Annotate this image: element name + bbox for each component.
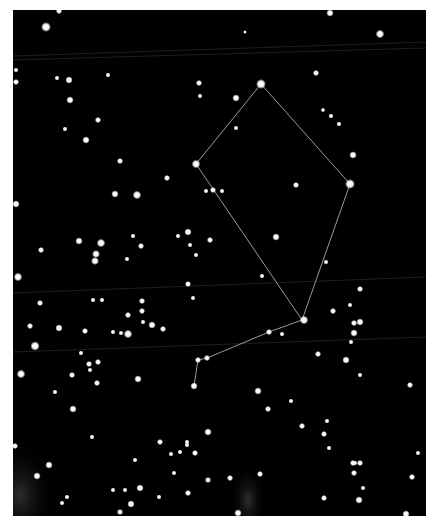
star[interactable] (65, 76, 73, 84)
star[interactable] (272, 233, 280, 241)
star[interactable] (195, 357, 201, 363)
star[interactable] (356, 318, 364, 326)
star[interactable] (265, 406, 271, 412)
star[interactable] (86, 361, 92, 367)
star[interactable] (134, 375, 142, 383)
star[interactable] (75, 237, 83, 245)
star[interactable] (45, 461, 53, 469)
star[interactable] (95, 359, 101, 365)
star[interactable] (402, 510, 410, 516)
star[interactable] (357, 286, 363, 292)
star[interactable] (97, 239, 106, 248)
star[interactable] (125, 257, 130, 262)
star[interactable] (185, 490, 191, 496)
star[interactable] (254, 387, 262, 395)
star[interactable] (33, 472, 41, 480)
star[interactable] (257, 471, 263, 477)
star[interactable] (190, 382, 198, 390)
star[interactable] (315, 351, 321, 357)
star[interactable] (350, 460, 356, 466)
star[interactable] (192, 450, 198, 456)
star[interactable] (321, 108, 326, 113)
star[interactable] (185, 281, 191, 287)
star[interactable] (361, 486, 366, 491)
star[interactable] (138, 243, 144, 249)
star[interactable] (176, 234, 181, 239)
star[interactable] (17, 370, 26, 379)
star[interactable] (13, 79, 19, 85)
star[interactable] (41, 22, 51, 32)
star[interactable] (220, 189, 225, 194)
star[interactable] (185, 443, 190, 448)
star[interactable] (157, 495, 162, 500)
star[interactable] (243, 30, 247, 34)
star[interactable] (188, 243, 193, 248)
star[interactable] (357, 460, 363, 466)
star[interactable] (148, 321, 156, 329)
star[interactable] (82, 136, 90, 144)
star[interactable] (198, 94, 203, 99)
star[interactable] (351, 320, 357, 326)
star[interactable] (136, 484, 144, 492)
star[interactable] (133, 458, 138, 463)
star[interactable] (204, 355, 210, 361)
star[interactable] (349, 151, 357, 159)
star[interactable] (157, 439, 163, 445)
star[interactable] (325, 419, 330, 424)
star[interactable] (111, 330, 116, 335)
star[interactable] (139, 298, 145, 304)
star[interactable] (313, 70, 319, 76)
star[interactable] (234, 126, 239, 131)
star[interactable] (164, 175, 170, 181)
star[interactable] (66, 96, 74, 104)
star[interactable] (345, 179, 355, 189)
star[interactable] (139, 308, 145, 314)
star[interactable] (27, 323, 33, 329)
star[interactable] (329, 114, 334, 119)
star[interactable] (293, 182, 299, 188)
star[interactable] (88, 368, 93, 373)
star[interactable] (289, 399, 294, 404)
star[interactable] (133, 191, 142, 200)
star[interactable] (169, 452, 174, 457)
star[interactable] (127, 500, 135, 508)
star[interactable] (299, 423, 305, 429)
star[interactable] (160, 326, 166, 332)
star[interactable] (326, 10, 334, 17)
star[interactable] (13, 200, 20, 208)
star[interactable] (69, 405, 77, 413)
star[interactable] (60, 501, 65, 506)
star[interactable] (351, 470, 357, 476)
star[interactable] (92, 250, 100, 258)
star[interactable] (131, 234, 136, 239)
star[interactable] (55, 324, 63, 332)
star[interactable] (376, 30, 385, 39)
star[interactable] (194, 253, 199, 258)
star[interactable] (69, 372, 75, 378)
star[interactable] (53, 390, 58, 395)
star[interactable] (327, 446, 332, 451)
star[interactable] (141, 320, 146, 325)
star[interactable] (30, 341, 40, 351)
star[interactable] (55, 76, 60, 81)
star[interactable] (65, 495, 70, 500)
star[interactable] (119, 331, 124, 336)
star[interactable] (106, 73, 111, 78)
star[interactable] (14, 273, 23, 282)
star[interactable] (204, 428, 212, 436)
star[interactable] (111, 190, 119, 198)
star[interactable] (178, 450, 183, 455)
star[interactable] (117, 158, 123, 164)
star[interactable] (94, 380, 100, 386)
star[interactable] (407, 382, 413, 388)
star[interactable] (79, 351, 84, 356)
star[interactable] (337, 122, 342, 127)
star[interactable] (123, 488, 128, 493)
star[interactable] (204, 189, 209, 194)
star[interactable] (56, 10, 62, 14)
star[interactable] (91, 257, 99, 265)
star[interactable] (266, 329, 272, 335)
star[interactable] (350, 329, 358, 337)
star-map[interactable] (13, 10, 426, 516)
star[interactable] (205, 477, 211, 483)
